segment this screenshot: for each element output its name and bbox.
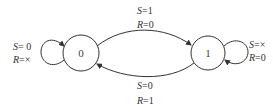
transition-1-to-0-arrow (97, 63, 194, 77)
label-s: S=1 (137, 5, 153, 16)
label-s: S=× (249, 39, 265, 50)
label-s: S=0 (137, 80, 153, 91)
state-diagram: 0 1 S=1 R=0 S=0 R=1 S= 0 R=× (0, 0, 273, 112)
state-0: 0 (63, 35, 99, 71)
self-loop-1-arrow (224, 41, 248, 64)
self-loop-0-arrow (41, 40, 64, 64)
label-r: R=0 (248, 52, 266, 63)
state-1: 1 (191, 36, 225, 70)
label-self-loop-0: S= 0 R=× (12, 41, 31, 65)
label-r: R=× (12, 54, 30, 65)
label-r: R=1 (136, 95, 154, 106)
transition-0-to-1-arrow (97, 30, 191, 46)
state-1-label: 1 (205, 47, 211, 59)
state-0-label: 0 (78, 47, 84, 59)
label-self-loop-1: S=× R=0 (248, 39, 266, 63)
label-r: R=0 (136, 19, 154, 30)
label-s: S= 0 (13, 41, 31, 52)
label-transition-0-to-1: S=1 R=0 (136, 5, 154, 30)
label-transition-1-to-0: S=0 R=1 (136, 80, 154, 106)
